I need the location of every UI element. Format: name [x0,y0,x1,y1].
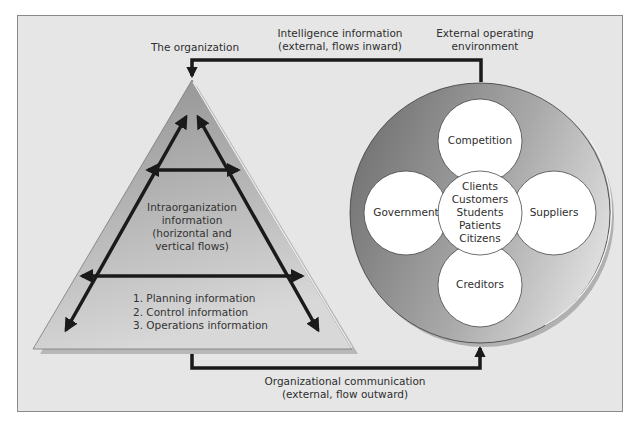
citizens-text: Citizens [440,232,520,245]
customers-text: Customers [440,193,520,206]
intra-line-4: vertical flows) [137,240,247,253]
information-types-list: 1. Planning information 2. Control infor… [133,292,268,333]
clients-text: Clients [440,180,520,193]
organization-label-text: The organization [140,41,250,54]
competition-label: Competition [440,134,520,147]
patients-text: Patients [440,219,520,232]
org-communication-label: Organizational communication (external, … [255,375,435,401]
creditors-label: Creditors [440,278,520,291]
center-stakeholders-label: Clients Customers Students Patients Citi… [440,180,520,245]
intelligence-line-1: Intelligence information [255,27,425,40]
organization-label: The organization [140,41,250,54]
org-comm-line-1: Organizational communication [255,375,435,388]
creditors-text: Creditors [440,278,520,291]
competition-text: Competition [440,134,520,147]
students-text: Students [440,206,520,219]
suppliers-label: Suppliers [514,206,594,219]
intelligence-info-label: Intelligence information (external, flow… [255,27,425,53]
external-env-line-1: External operating [425,27,545,40]
info-type-control: 2. Control information [133,306,268,320]
intelligence-line-2: (external, flows inward) [255,40,425,53]
info-type-operations: 3. Operations information [133,319,268,333]
external-environment-label: External operating environment [425,27,545,53]
suppliers-text: Suppliers [514,206,594,219]
intelligence-flow-arrow [192,60,481,82]
intra-line-1: Intraorganization [137,201,247,214]
info-type-planning: 1. Planning information [133,292,268,306]
intraorganization-info-label: Intraorganization information (horizonta… [137,201,247,253]
external-env-line-2: environment [425,40,545,53]
intra-line-2: information [137,214,247,227]
government-text: Government [366,206,446,219]
intra-line-3: (horizontal and [137,227,247,240]
government-label: Government [366,206,446,219]
org-comm-line-2: (external, flow outward) [255,388,435,401]
